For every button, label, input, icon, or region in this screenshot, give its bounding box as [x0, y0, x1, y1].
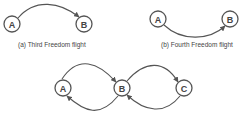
edge-c-to-b-under [127, 95, 180, 109]
diagram-fourth-freedom: A B (b) Fourth Freedom flight [150, 11, 238, 49]
node-b: B [222, 11, 238, 27]
svg-text:A: A [9, 20, 16, 30]
svg-text:A: A [60, 84, 67, 94]
edge-a-to-b [18, 4, 79, 18]
node-a: A [150, 11, 166, 27]
edge-a-to-b-over [62, 64, 116, 82]
caption-third-freedom: (a) Third Freedom flight [18, 41, 86, 49]
edge-a-to-b [164, 25, 225, 37]
svg-text:B: B [81, 20, 88, 30]
svg-text:C: C [181, 84, 188, 94]
caption-fourth-freedom: (b) Fourth Freedom flight [161, 41, 233, 49]
edge-b-to-c-over [127, 65, 178, 82]
edge-b-to-a-under [67, 96, 118, 110]
svg-text:B: B [227, 15, 234, 25]
node-a: A [55, 80, 71, 96]
node-b: B [114, 80, 130, 96]
diagram-three-node: A B C [55, 64, 192, 111]
node-a: A [4, 16, 20, 32]
node-b: B [76, 16, 92, 32]
svg-text:B: B [119, 84, 126, 94]
freedom-flights-diagram: A B (a) Third Freedom flight A B (b) Fou… [0, 0, 250, 115]
svg-text:A: A [155, 15, 162, 25]
diagram-third-freedom: A B (a) Third Freedom flight [4, 4, 92, 49]
node-c: C [176, 80, 192, 96]
